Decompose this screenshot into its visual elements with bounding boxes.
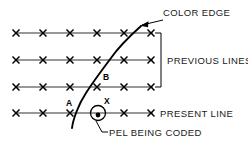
diagram-canvas: COLOR EDGE PREVIOUS LINES PRESENT LINE P…	[0, 0, 248, 142]
point-label-b: B	[103, 72, 109, 82]
diagram-root: COLOR EDGE PREVIOUS LINES PRESENT LINE P…	[0, 0, 248, 142]
point-label-a: A	[66, 98, 72, 108]
previous-lines-bracket	[155, 33, 161, 87]
scan-line-previous-3	[13, 84, 155, 91]
pel-being-coded-label: PEL BEING CODED	[109, 127, 202, 138]
scan-line-present	[13, 110, 155, 117]
color-edge-leader	[140, 20, 163, 27]
present-line-label: PRESENT LINE	[160, 108, 233, 119]
color-edge-label: COLOR EDGE	[163, 7, 230, 18]
coded-pel-dot	[96, 113, 101, 118]
pel-being-coded-leader	[96, 121, 108, 132]
scan-line-previous-2	[13, 57, 155, 64]
previous-lines-label: PREVIOUS LINES	[167, 55, 248, 66]
point-label-x: X	[104, 96, 110, 106]
